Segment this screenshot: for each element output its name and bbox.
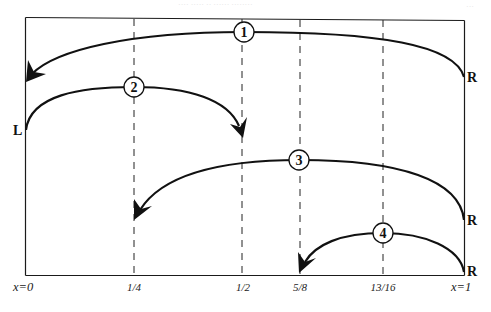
arc-3-label: 3 bbox=[296, 153, 303, 168]
arc-3: 3 bbox=[134, 150, 464, 220]
side-labels: L R R R bbox=[13, 70, 478, 279]
arc-4: 4 bbox=[298, 223, 464, 273]
right-label-R-3: R bbox=[467, 264, 478, 279]
arc-2-label: 2 bbox=[131, 80, 138, 95]
tick-label-thirteen-sixteenths: 13/16 bbox=[370, 281, 396, 293]
axis-labels: x=0 1/4 1/2 5/8 13/16 x=1 bbox=[12, 280, 471, 294]
arc-4-label: 4 bbox=[380, 226, 387, 241]
left-label-L: L bbox=[13, 123, 22, 138]
page-number: ··· bbox=[466, 2, 474, 11]
arc-2-arrowhead-icon bbox=[230, 117, 247, 138]
frame-top-edge bbox=[26, 18, 465, 21]
page-header-text: ···· ····· ·· ······ ········ bbox=[178, 0, 253, 9]
arc-3-arrowhead-icon bbox=[134, 199, 152, 220]
arc-4-arrowhead-icon bbox=[298, 252, 316, 273]
tick-label-five-eighths: 5/8 bbox=[293, 281, 308, 293]
arc-1-label: 1 bbox=[241, 25, 248, 40]
arc-1: 1 bbox=[26, 22, 464, 82]
diagram-canvas: ···· ····· ·· ······ ········ ··· 1 bbox=[0, 0, 491, 312]
right-label-R-2: R bbox=[467, 213, 478, 228]
right-label-R-1: R bbox=[467, 70, 478, 85]
frame bbox=[26, 18, 465, 276]
axis-label-x0: x=0 bbox=[12, 280, 34, 294]
reflection-diagram: ···· ····· ·· ······ ········ ··· 1 bbox=[0, 0, 491, 312]
axis-label-x1: x=1 bbox=[450, 280, 471, 294]
tick-label-half: 1/2 bbox=[236, 281, 251, 293]
arc-2: 2 bbox=[26, 77, 247, 138]
tick-label-quarter: 1/4 bbox=[127, 281, 142, 293]
